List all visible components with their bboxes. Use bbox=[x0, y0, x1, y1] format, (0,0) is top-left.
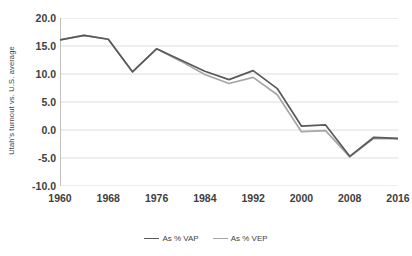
y-axis-tick-label: -5.0 bbox=[38, 152, 56, 164]
y-axis-tick-label: 10.0 bbox=[36, 68, 56, 80]
x-axis-tick-label: 1984 bbox=[193, 192, 216, 204]
x-axis-tick-label: 1960 bbox=[48, 192, 71, 204]
x-axis-tick-label: 2008 bbox=[338, 192, 361, 204]
y-axis-tick-labels: 20.015.010.05.00.0-5.0-10.0 bbox=[18, 0, 60, 200]
x-axis-tick-label: 1992 bbox=[241, 192, 264, 204]
legend-label: As % VEP bbox=[231, 234, 268, 243]
legend-label: As % VAP bbox=[162, 234, 198, 243]
plot-svg bbox=[60, 18, 398, 186]
line-chart: Utah's turnout vs. U.S. average 20.015.0… bbox=[0, 0, 412, 256]
legend-line-icon bbox=[144, 238, 159, 239]
plot-area bbox=[60, 18, 398, 186]
series-line bbox=[60, 35, 398, 157]
x-axis-tick-label: 1968 bbox=[97, 192, 120, 204]
y-axis-tick-label: 20.0 bbox=[36, 12, 56, 24]
chart-legend: As % VAPAs % VEP bbox=[0, 228, 412, 248]
series-line bbox=[60, 35, 398, 156]
legend-item[interactable]: As % VAP bbox=[144, 234, 198, 243]
x-axis-tick-label: 2016 bbox=[386, 192, 409, 204]
y-axis-tick-label: 15.0 bbox=[36, 40, 56, 52]
x-axis-tick-label: 2000 bbox=[290, 192, 313, 204]
y-axis-title-label: Utah's turnout vs. U.S. average bbox=[7, 46, 16, 155]
y-axis-tick-label: -10.0 bbox=[32, 180, 56, 192]
legend-line-icon bbox=[213, 238, 228, 239]
x-axis-tick-labels: 19601968197619841992200020082016 bbox=[60, 190, 398, 212]
y-axis-tick-label: 0.0 bbox=[41, 124, 56, 136]
x-axis-tick-label: 1976 bbox=[145, 192, 168, 204]
y-axis-tick-label: 5.0 bbox=[41, 96, 56, 108]
legend-item[interactable]: As % VEP bbox=[213, 234, 268, 243]
